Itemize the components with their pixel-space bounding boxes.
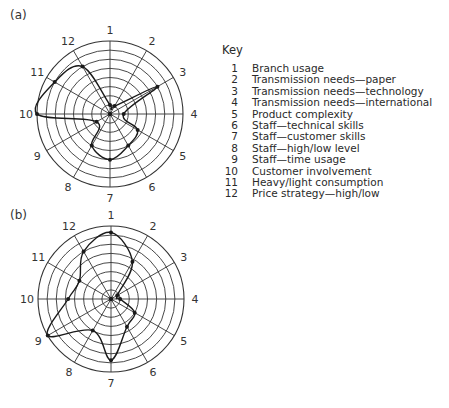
data-point xyxy=(130,260,134,264)
axis-label: 10 xyxy=(20,293,34,306)
axis-label: 1 xyxy=(107,24,114,37)
axis-spoke xyxy=(111,236,148,299)
axis-spoke xyxy=(110,114,173,151)
key-legend: Key 1Branch usage2Transmission needs—pap… xyxy=(222,43,432,200)
axis-label: 7 xyxy=(108,377,115,390)
data-point xyxy=(126,144,130,148)
axis-label: 4 xyxy=(192,293,199,306)
data-point xyxy=(115,293,119,297)
axis-spoke xyxy=(111,263,174,300)
data-point xyxy=(77,279,81,283)
data-point xyxy=(108,158,112,162)
axis-label: 1 xyxy=(108,209,115,222)
data-point xyxy=(66,297,70,301)
key-item-label: Price strategy—high/low xyxy=(252,188,380,199)
axis-label: 9 xyxy=(34,150,41,163)
data-point xyxy=(122,112,126,116)
axis-label: 6 xyxy=(150,366,157,379)
data-point xyxy=(46,334,50,338)
data-point xyxy=(109,358,113,362)
panel-label-a: (a) xyxy=(10,8,27,22)
data-point xyxy=(118,297,122,301)
key-item: 4Transmission needs—international xyxy=(222,97,432,108)
data-point xyxy=(136,128,140,132)
radar-chart-b: 123456789101112 xyxy=(20,209,199,390)
axis-spoke xyxy=(111,299,174,336)
key-item-label: Transmission needs—international xyxy=(252,97,432,108)
axis-spoke xyxy=(74,51,111,114)
data-point xyxy=(133,311,137,315)
data-point xyxy=(155,85,159,89)
data-point xyxy=(108,103,112,107)
axis-label: 3 xyxy=(180,251,187,264)
axis-label: 2 xyxy=(149,35,156,48)
axis-spoke xyxy=(48,299,111,336)
data-point xyxy=(113,104,117,108)
axis-label: 8 xyxy=(65,181,72,194)
axis-label: 8 xyxy=(66,366,73,379)
axis-label: 11 xyxy=(30,66,44,79)
key-item-number: 4 xyxy=(222,97,238,108)
axis-label: 5 xyxy=(179,150,186,163)
center-point xyxy=(109,297,113,301)
axis-label: 9 xyxy=(35,335,42,348)
axis-label: 12 xyxy=(62,220,76,233)
axis-spoke xyxy=(110,78,173,115)
key-item-number: 12 xyxy=(222,188,238,199)
axis-label: 10 xyxy=(19,108,33,121)
data-point xyxy=(90,144,94,148)
axis-label: 11 xyxy=(31,251,45,264)
panel-label-b: (b) xyxy=(10,208,27,222)
axis-label: 3 xyxy=(179,66,186,79)
data-point xyxy=(125,325,129,329)
axis-label: 2 xyxy=(150,220,157,233)
data-point xyxy=(91,329,95,333)
axis-label: 6 xyxy=(149,181,156,194)
radar-chart-a: 123456789101112 xyxy=(19,24,198,205)
data-point xyxy=(81,65,85,69)
profile-curve xyxy=(47,232,135,360)
data-point xyxy=(53,80,57,84)
key-item: 12Price strategy—high/low xyxy=(222,188,432,199)
key-title: Key xyxy=(222,43,432,57)
data-point xyxy=(35,112,39,116)
key-item-label: Staff—time usage xyxy=(252,154,346,165)
axis-label: 12 xyxy=(61,35,75,48)
data-point xyxy=(95,120,99,124)
axis-label: 5 xyxy=(180,335,187,348)
key-item: 9Staff—time usage xyxy=(222,154,432,165)
data-point xyxy=(109,230,113,234)
key-item-number: 9 xyxy=(222,154,238,165)
center-point xyxy=(108,112,112,116)
axis-label: 7 xyxy=(107,192,114,205)
axis-label: 4 xyxy=(191,108,198,121)
data-point xyxy=(82,250,86,254)
